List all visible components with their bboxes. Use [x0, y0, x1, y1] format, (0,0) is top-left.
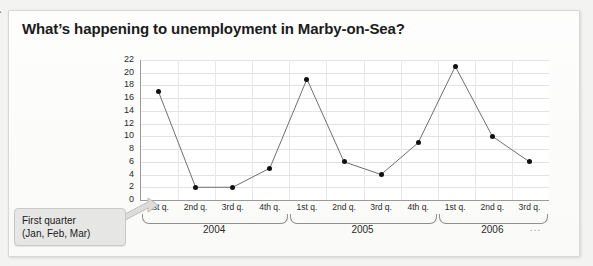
y-axis-tick-label: 14	[108, 105, 134, 115]
line-series	[140, 60, 548, 200]
y-axis-tick-label: 18	[108, 79, 134, 89]
y-axis-tick-label: 2	[108, 181, 134, 191]
page-background: What’s happening to unemployment in Marb…	[0, 0, 593, 266]
data-point	[230, 185, 235, 190]
y-axis-tick-label: 22	[108, 54, 134, 64]
data-point	[342, 159, 347, 164]
y-axis-tick-label: 10	[108, 130, 134, 140]
data-point	[453, 64, 458, 69]
year-bracket	[290, 214, 436, 224]
y-axis-tick-label: 20	[108, 67, 134, 77]
year-label: 2005	[290, 224, 434, 235]
y-axis-tick-label: 4	[108, 169, 134, 179]
y-axis-tick-label: 12	[108, 118, 134, 128]
y-axis-tick-label: 8	[108, 143, 134, 153]
callout-box: First quarter (Jan, Feb, Mar)	[14, 208, 126, 246]
data-point	[416, 140, 421, 145]
y-axis-tick-label: 6	[108, 156, 134, 166]
x-axis-tick-label: 3rd q.	[507, 202, 551, 212]
year-bracket	[439, 214, 548, 224]
y-axis-title: Unemployment (thousands)	[0, 0, 1, 40]
page-title: What’s happening to unemployment in Marb…	[22, 20, 405, 37]
callout-line-1: First quarter	[22, 214, 118, 227]
data-point	[379, 172, 384, 177]
y-axis-tick-label: 16	[108, 92, 134, 102]
year-label: 2004	[142, 224, 286, 235]
year-label: 2006	[439, 224, 546, 235]
callout-line-2: (Jan, Feb, Mar)	[22, 227, 118, 240]
year-bracket	[142, 214, 288, 224]
data-point	[193, 185, 198, 190]
data-point	[490, 134, 495, 139]
